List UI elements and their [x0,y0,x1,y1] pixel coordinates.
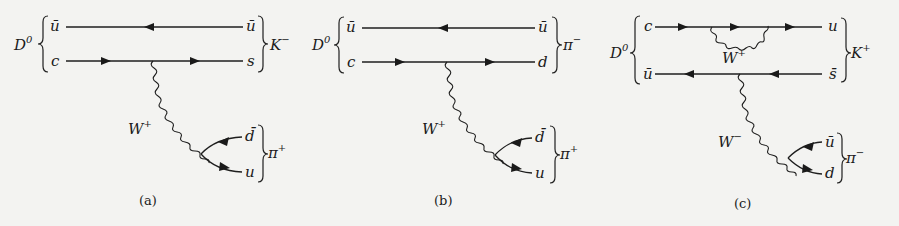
arrow-right-icon [730,23,740,31]
left-brace [334,17,344,73]
caption-c: (c) [734,196,751,211]
final-meson-2: π+ [559,143,578,163]
arrow-left-icon [438,24,448,32]
boson-label: W− [718,131,742,151]
bottom-quark-in: ū [643,65,653,83]
bottom-quark-out: d [538,53,548,71]
initial-meson-label: D0 [13,34,33,54]
final-meson-1: π− [562,34,581,54]
bottom-quark-in: c [347,53,356,71]
caption-b: (b) [434,193,452,208]
top-quark-in: c [644,17,653,35]
arrow-left-icon [769,70,779,78]
arrow-in-icon [803,142,814,151]
w-boson-propagator [738,74,796,176]
boson-label: W+ [128,118,152,138]
final-meson-1: K− [269,34,290,54]
arrow-right-icon [785,23,795,31]
feynman-diagram-figure: D0 ū c ū s K− W+ d̄ u π+ (a) D0 ū c [0,0,899,226]
right-brace [841,18,851,82]
top-quark-out: u [828,17,838,35]
arrow-in-icon [218,137,229,146]
right-brace [552,17,562,73]
pair-bottom-label: u [245,163,255,181]
arrow-right-icon [101,57,111,65]
initial-meson-label: D0 [609,42,629,62]
diagram-a: D0 ū c ū s K− W+ d̄ u π+ (a) [13,16,290,208]
arrow-right-icon [678,23,688,31]
pair-bottom-label: u [535,164,545,182]
arrow-right-icon [395,58,405,66]
top-quark-out: ū [538,18,548,36]
w-boson-propagator [445,62,503,164]
caption-a: (a) [139,193,157,208]
final-meson-1: K+ [850,42,871,62]
pair-bottom-label: d [825,164,835,182]
top-quark-in: ū [346,18,356,36]
arrow-left-icon [684,70,694,78]
w-boson-propagator [151,61,209,163]
top-quark-out: ū [246,17,256,35]
bottom-quark-out: s̄ [829,65,837,83]
antiquark-pair-line [201,137,242,154]
final-meson-2: π− [845,147,864,167]
antiquark-pair-line [788,142,822,158]
arrow-left-icon [144,23,154,31]
boson-label: W+ [422,118,446,138]
top-quark-in: ū [50,17,60,35]
loop-boson-label: W+ [722,47,746,67]
diagram-c: D0 c ū W+ u s̄ K+ W− ū d π− (c) [609,16,871,211]
diagram-b: D0 ū c ū d π− W+ d̄ u π+ (b) [311,17,581,208]
pair-top-label: d̄ [245,127,256,145]
arrow-in-icon [511,138,522,147]
bottom-quark-in: c [51,52,60,70]
left-brace [630,16,640,84]
final-meson-2: π+ [267,142,286,162]
pair-top-label: ū [825,133,835,151]
arrow-right-icon [485,58,495,66]
initial-meson-label: D0 [311,34,331,54]
right-brace [550,126,560,183]
right-brace [258,125,268,182]
pair-top-label: d̄ [535,128,546,146]
bottom-quark-out: s [247,52,255,70]
arrow-right-icon [190,57,200,65]
right-brace [258,16,268,72]
antiquark-pair-line [495,138,532,155]
left-brace [38,16,48,72]
